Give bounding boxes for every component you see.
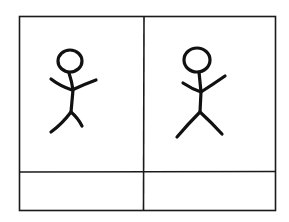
caption-divider-horizontal: [20, 172, 276, 173]
torso: [69, 73, 73, 112]
panel-1-caption: [20, 173, 143, 210]
legs: [177, 112, 222, 137]
head-icon: [184, 48, 210, 72]
panel-2-caption: [145, 173, 275, 210]
panel-divider-vertical: [144, 17, 145, 211]
head-icon: [58, 50, 82, 72]
arms: [183, 76, 225, 92]
legs: [51, 112, 82, 132]
panel-2-stick-figure: [177, 48, 225, 137]
panel-1-stick-figure: [51, 50, 96, 132]
